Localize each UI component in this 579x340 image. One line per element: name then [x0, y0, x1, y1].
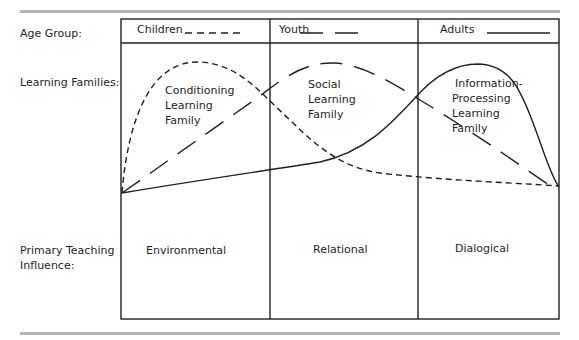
family-label-line: Information-	[455, 76, 523, 91]
family-label-line: Learning	[452, 106, 523, 121]
influence-dialogical: Dialogical	[455, 241, 509, 256]
family-label-line: Family	[308, 107, 356, 122]
family-label-line: Learning	[165, 98, 235, 113]
diagram-canvas	[0, 0, 579, 340]
family-label-line: Family	[452, 121, 523, 136]
age-group-children: Children	[137, 23, 183, 36]
family-label-conditioning: Conditioning Learning Family	[165, 83, 235, 128]
age-group-adults: Adults	[440, 23, 474, 36]
family-label-information-processing: Information- Processing Learning Family	[452, 76, 523, 136]
family-label-line: Learning	[308, 92, 356, 107]
family-label-social: Social Learning Family	[308, 77, 356, 122]
family-label-line: Family	[165, 113, 235, 128]
influence-environmental: Environmental	[146, 243, 226, 258]
family-label-line: Conditioning	[165, 83, 235, 98]
family-label-line: Processing	[452, 91, 523, 106]
age-group-youth: Youth	[279, 23, 309, 36]
influence-relational: Relational	[313, 242, 368, 257]
family-label-line: Social	[308, 77, 356, 92]
